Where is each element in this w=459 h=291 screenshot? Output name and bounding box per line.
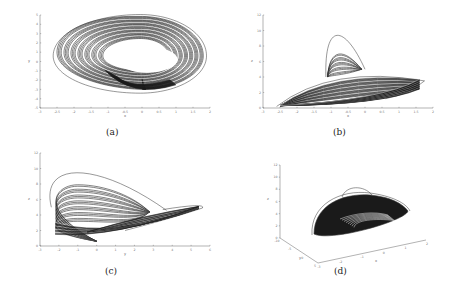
z-tick-label: 8 <box>275 187 277 191</box>
plot-c-svg: -3-2-10123456024681012yz <box>0 145 230 270</box>
x-tick-label: 2 <box>426 242 428 246</box>
y-tick-label: 12 <box>34 151 38 155</box>
y-tick-label: -10 <box>274 239 279 243</box>
x-tick-label: 1.5 <box>413 110 418 114</box>
x-tick-label: 0 <box>96 248 98 252</box>
x-tick-label: -3 <box>38 110 41 114</box>
x-tick-label: 3 <box>152 248 154 252</box>
caption-d: (d) <box>334 266 347 276</box>
y-tick-label: 6 <box>259 60 261 64</box>
subplot-b: -3-2.5-2-1.5-1-0.500.511.52024681012xz (… <box>230 0 459 145</box>
x-tick-label: -1 <box>76 248 79 252</box>
x-tick-label: -0.5 <box>345 110 351 114</box>
x-tick-label: -1 <box>106 110 109 114</box>
x-tick-label: 1 <box>404 246 406 250</box>
x-tick-label: -1 <box>361 255 364 259</box>
y-tick-label: 1 <box>36 50 38 54</box>
plot-d-svg: 024681012-10-505-3-2-1012zyx <box>230 145 459 270</box>
y-tick-label: -4 <box>35 97 38 101</box>
y-tick-label: 3 <box>36 32 38 36</box>
x-tick-label: 2 <box>432 110 434 114</box>
x-tick-label: -3 <box>38 248 41 252</box>
x-tick-label: 4 <box>171 248 173 252</box>
x-tick-label: 2 <box>133 248 135 252</box>
y-tick-label: 4 <box>36 213 38 217</box>
inner-hole <box>117 47 178 73</box>
y-tick-label: 2 <box>36 229 38 233</box>
x-tick-label: 2 <box>209 110 211 114</box>
y-tick-label: 10 <box>34 167 38 171</box>
x-tick-label: 0 <box>364 110 366 114</box>
y-tick-label: 10 <box>257 29 261 33</box>
subplot-c: -3-2-10123456024681012yz (c) <box>0 145 230 291</box>
y-tick-label: 6 <box>36 198 38 202</box>
x-tick-label: 1.5 <box>190 110 195 114</box>
x-tick-label: 1 <box>115 248 117 252</box>
y-tick-label: -1 <box>35 69 38 73</box>
trajectory-d <box>312 188 410 236</box>
caption-c: (c) <box>105 266 117 276</box>
x-tick-label: 1 <box>398 110 400 114</box>
y-tick-label: -2 <box>35 78 38 82</box>
z-axis-label: z <box>267 197 269 201</box>
x-tick-label: -2 <box>57 248 60 252</box>
y-tick-label: 0 <box>36 60 38 64</box>
y-tick-label: 5 <box>36 13 38 17</box>
y-tick-label: 2 <box>36 41 38 45</box>
x-tick-label: 0 <box>141 110 143 114</box>
x-tick-label: -0.5 <box>122 110 128 114</box>
x-tick-label: -2.5 <box>277 110 283 114</box>
x-tick-label: -2 <box>295 110 298 114</box>
y-tick-label: 8 <box>259 44 261 48</box>
y-tick-label: 8 <box>36 182 38 186</box>
x-axis-label: y <box>124 252 127 256</box>
y-tick-label: -5 <box>288 247 291 251</box>
x-tick-label: -1.5 <box>88 110 94 114</box>
x-tick-label: -2 <box>72 110 75 114</box>
y-tick-label: 12 <box>257 13 261 17</box>
x-tick-label: -3 <box>261 110 264 114</box>
z-tick-label: 12 <box>273 163 277 167</box>
subplot-d: 024681012-10-505-3-2-1012zyx (d) <box>230 145 459 291</box>
y-tick-label: 5 <box>314 264 316 268</box>
peak-orbit <box>50 173 167 211</box>
trajectory-b <box>277 35 425 106</box>
caption-b: (b) <box>333 127 346 137</box>
x-tick-label: -1 <box>329 110 332 114</box>
dome-fill <box>314 195 408 236</box>
y-tick-label: 0 <box>259 106 261 110</box>
y-tick-label: 0 <box>301 256 303 260</box>
x-tick-label: 6 <box>209 248 211 252</box>
subplot-a: -3-2.5-2-1.5-1-0.500.511.52-5-4-3-2-1012… <box>0 0 230 145</box>
x-tick-label: 1 <box>175 110 177 114</box>
x-tick-label: 0.5 <box>379 110 384 114</box>
y-axis-label: y <box>28 59 31 63</box>
y-tick-label: 0 <box>36 244 38 248</box>
y-tick-label: 2 <box>259 91 261 95</box>
y-axis-label: z <box>251 59 253 63</box>
x-tick-label: -2.5 <box>54 110 60 114</box>
z-tick-label: 6 <box>275 200 277 204</box>
x-axis-label: x <box>375 259 378 263</box>
y-tick-label: 4 <box>36 22 38 26</box>
x-axis-label: x <box>124 114 127 118</box>
trajectory-a <box>53 15 206 94</box>
x-tick-label: -3 <box>317 265 320 269</box>
z-tick-label: 10 <box>273 175 277 179</box>
x-axis-line <box>318 240 426 263</box>
x-tick-label: 5 <box>190 248 192 252</box>
caption-a: (a) <box>106 127 118 137</box>
plot-b-svg: -3-2.5-2-1.5-1-0.500.511.52024681012xz <box>230 0 459 125</box>
y-tick-label: 4 <box>259 75 261 79</box>
x-tick-label: 0 <box>383 251 385 255</box>
trajectory-c <box>50 173 203 242</box>
x-tick-label: -1.5 <box>311 110 317 114</box>
y-axis-label: z <box>28 197 30 201</box>
plot-a-svg: -3-2.5-2-1.5-1-0.500.511.52-5-4-3-2-1012… <box>0 0 230 125</box>
x-axis-label: x <box>347 114 350 118</box>
y-tick-label: -5 <box>35 106 38 110</box>
x-tick-label: -2 <box>339 260 342 264</box>
y-tick-label: -3 <box>35 88 38 92</box>
x-tick-label: 0.5 <box>156 110 161 114</box>
z-tick-label: 4 <box>275 212 277 216</box>
